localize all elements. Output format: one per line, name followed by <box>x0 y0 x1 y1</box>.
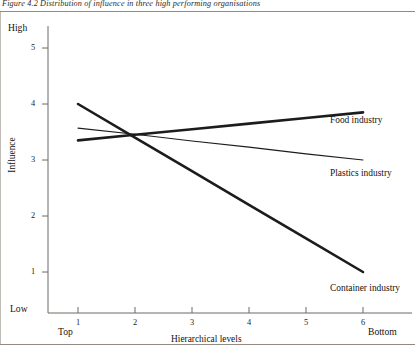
x-tick-label-1: 1 <box>71 318 85 327</box>
figure-container: Figure 4.2 Distribution of influence in … <box>0 0 415 356</box>
x-tick-label-3: 3 <box>185 318 199 327</box>
x-tick-label-4: 4 <box>242 318 256 327</box>
y-tick-label-2: 2 <box>26 211 40 220</box>
y-tick-label-3: 3 <box>26 155 40 164</box>
y-axis-low-label: Low <box>10 303 28 314</box>
y-tick-label-5: 5 <box>26 43 40 52</box>
y-tick-label-1: 1 <box>26 267 40 276</box>
series-line-food-industry <box>78 112 363 140</box>
x-axis-title: Hierarchical levels <box>171 334 242 344</box>
x-tick-label-5: 5 <box>299 318 313 327</box>
series-lines <box>78 104 363 272</box>
y-tick-label-4: 4 <box>26 99 40 108</box>
x-axis-bottom-label: Bottom <box>368 326 397 337</box>
series-label-plastics: Plastics industry <box>330 168 392 178</box>
series-label-food: Food industry <box>330 115 382 125</box>
series-line-plastics-industry <box>78 128 363 160</box>
y-axis-high-label: High <box>8 22 27 33</box>
x-tick-label-2: 2 <box>128 318 142 327</box>
x-tick-marks <box>78 307 363 313</box>
y-tick-marks <box>42 48 48 272</box>
x-tick-label-6: 6 <box>356 318 370 327</box>
x-axis-top-label: Top <box>58 326 73 337</box>
chart-plot-area <box>0 0 415 356</box>
y-axis-title: Influence <box>7 125 17 185</box>
series-line-container-industry <box>78 104 363 272</box>
series-label-container: Container industry <box>330 283 400 293</box>
